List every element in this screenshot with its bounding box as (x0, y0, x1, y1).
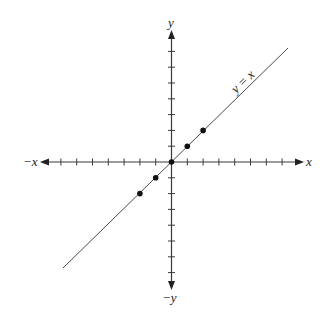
data-point (169, 159, 175, 165)
x-axis-label: x (305, 154, 312, 169)
data-point (153, 175, 159, 181)
y-axis-arrow-down-icon (168, 281, 175, 290)
chart: x −x y −y y = x (0, 0, 332, 318)
data-point (200, 128, 206, 134)
negative-x-axis-label: −x (23, 154, 38, 169)
data-point (137, 191, 143, 197)
data-point (185, 143, 191, 149)
x-axis-arrow-left-icon (40, 159, 49, 166)
x-axis-arrow-right-icon (295, 159, 304, 166)
y-axis-label: y (166, 15, 174, 30)
line-y-equals-x (63, 48, 288, 268)
negative-y-axis-label: −y (162, 290, 177, 305)
y-axis-arrow-up-icon (168, 30, 175, 39)
